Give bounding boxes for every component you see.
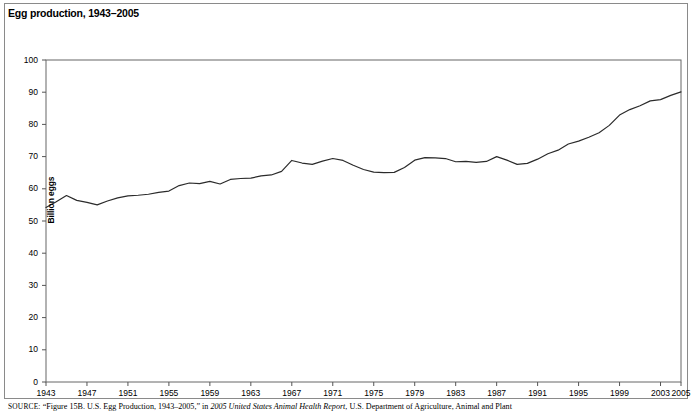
x-tick-label: 1955 bbox=[149, 389, 189, 398]
x-tick-label: 1995 bbox=[559, 389, 599, 398]
x-tick-label: 1983 bbox=[436, 389, 476, 398]
source-note: SOURCE: “Figure 15B. U.S. Egg Production… bbox=[8, 402, 686, 412]
y-axis-title: Billion eggs bbox=[46, 140, 56, 260]
x-tick-label: 1967 bbox=[272, 389, 312, 398]
y-tick-label: 90 bbox=[8, 88, 38, 97]
x-tick-label: 1999 bbox=[600, 389, 640, 398]
y-tick-label: 20 bbox=[8, 313, 38, 322]
source-label: SOURCE: bbox=[8, 402, 41, 411]
x-tick-label: 1951 bbox=[108, 389, 148, 398]
x-tick-label: 1943 bbox=[26, 389, 66, 398]
x-tick-label: 1959 bbox=[190, 389, 230, 398]
y-tick-label: 100 bbox=[8, 56, 38, 65]
line-chart-svg bbox=[0, 0, 693, 419]
y-tick-label: 80 bbox=[8, 120, 38, 129]
y-tick-label: 60 bbox=[8, 184, 38, 193]
x-tick-label: 1963 bbox=[231, 389, 271, 398]
source-italic-title: 2005 United States Animal Health Report bbox=[210, 402, 345, 411]
x-tick-label: 1975 bbox=[354, 389, 394, 398]
x-tick-label: 1987 bbox=[477, 389, 517, 398]
y-tick-label: 70 bbox=[8, 152, 38, 161]
y-tick-label: 50 bbox=[8, 217, 38, 226]
chart-plot-area: Billion eggs 010203040506070809010019431… bbox=[0, 0, 693, 419]
y-tick-label: 10 bbox=[8, 345, 38, 354]
x-tick-label: 1947 bbox=[67, 389, 107, 398]
source-text-2: , U.S. Department of Agriculture, Animal… bbox=[345, 402, 512, 411]
x-tick-label: 1979 bbox=[395, 389, 435, 398]
x-tick-label: 1971 bbox=[313, 389, 353, 398]
x-tick-label: 1991 bbox=[518, 389, 558, 398]
source-text-1: “Figure 15B. U.S. Egg Production, 1943–2… bbox=[43, 402, 211, 411]
y-tick-label: 0 bbox=[8, 378, 38, 387]
y-tick-label: 30 bbox=[8, 281, 38, 290]
x-tick-label: 2005 bbox=[661, 389, 693, 398]
y-tick-label: 40 bbox=[8, 249, 38, 258]
